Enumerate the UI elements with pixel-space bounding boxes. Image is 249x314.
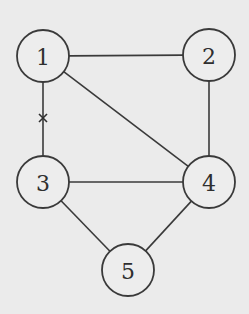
node-label: 2 bbox=[202, 44, 216, 69]
node-1: 1 bbox=[17, 30, 69, 82]
edge-1-2 bbox=[69, 55, 183, 56]
graph-diagram: 12345 bbox=[0, 0, 249, 314]
nodes: 12345 bbox=[17, 29, 235, 296]
node-3: 3 bbox=[17, 156, 69, 208]
node-5: 5 bbox=[102, 244, 154, 296]
node-4: 4 bbox=[183, 156, 235, 208]
edge-1-4 bbox=[64, 72, 189, 167]
edges bbox=[43, 55, 209, 251]
node-label: 1 bbox=[36, 45, 50, 70]
node-label: 3 bbox=[36, 171, 50, 196]
node-label: 4 bbox=[202, 171, 216, 196]
edge-3-5 bbox=[61, 201, 110, 252]
node-label: 5 bbox=[121, 259, 135, 284]
node-2: 2 bbox=[183, 29, 235, 81]
edge-4-5 bbox=[146, 201, 192, 251]
